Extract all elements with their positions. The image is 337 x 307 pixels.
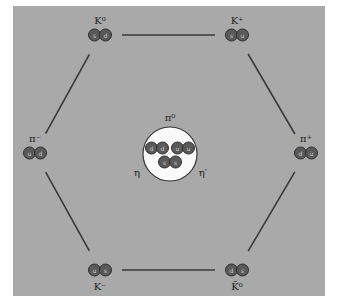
- quark-label: s: [163, 159, 166, 166]
- quark-label: s: [93, 32, 96, 39]
- quark-label: d: [150, 145, 154, 152]
- particle-label-k0: K⁰: [94, 15, 105, 26]
- quark-label: s: [104, 267, 107, 274]
- quark-pair-pi-minus: ud: [24, 147, 47, 159]
- edge-k-plus-pi-plus: [248, 54, 295, 134]
- quark-label: d: [39, 150, 43, 157]
- quark-label: u: [310, 150, 314, 157]
- quark-label: d: [104, 32, 108, 39]
- quark-label: s: [241, 267, 244, 274]
- center-group: π⁰ η η′ dduuss: [134, 112, 208, 181]
- quark-label: s: [230, 32, 233, 39]
- quark-label: u: [187, 145, 191, 152]
- particle-label-k-minus: K⁻: [94, 281, 107, 292]
- quark-pair-k-minus: us: [89, 264, 112, 276]
- quark-label: d: [230, 267, 234, 274]
- quark-pair-k0-bar: ds: [226, 264, 249, 276]
- quark-label: u: [241, 32, 245, 39]
- particle-label-k0-bar: K̄⁰: [231, 281, 242, 292]
- meson-octet-diagram: sdK⁰suK⁺udπ⁻duπ⁺usK⁻dsK̄⁰ π⁰ η η′ dduuss: [0, 0, 337, 307]
- center-top-label: π⁰: [165, 112, 176, 123]
- quark-label: u: [176, 145, 180, 152]
- node-k-plus: suK⁺: [226, 15, 249, 41]
- quark-pair-k0: sd: [89, 29, 112, 41]
- edge-pi-minus-k0: [46, 54, 90, 133]
- quark-pair-pi-plus: du: [295, 147, 318, 159]
- quark-label: u: [93, 267, 97, 274]
- node-k0-bar: dsK̄⁰: [226, 264, 249, 292]
- center-right-label: η′: [199, 167, 208, 178]
- node-pi-minus: udπ⁻: [24, 133, 47, 159]
- quark-label: d: [161, 145, 165, 152]
- quark-label: u: [28, 150, 32, 157]
- node-pi-plus: duπ⁺: [295, 133, 318, 159]
- quark-label: d: [299, 150, 303, 157]
- particle-label-k-plus: K⁺: [231, 15, 244, 26]
- node-k-minus: usK⁻: [89, 264, 112, 292]
- particle-label-pi-plus: π⁺: [300, 133, 312, 144]
- node-k0: sdK⁰: [89, 15, 112, 41]
- center-left-label: η: [134, 167, 140, 178]
- quark-label: s: [174, 159, 177, 166]
- quark-pair-k-plus: su: [226, 29, 249, 41]
- edge-k-minus-pi-minus: [46, 172, 90, 251]
- particle-label-pi-minus: π⁻: [29, 133, 41, 144]
- edge-pi-plus-k0-bar: [248, 172, 295, 251]
